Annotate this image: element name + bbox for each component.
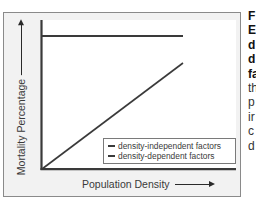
figure-caption: F E d d fa th p ir c d [248,9,256,153]
y-axis-arrow-icon [21,23,22,75]
caption-bold-line: E [248,23,256,37]
caption-bold-line: F [248,9,256,23]
caption-bold-line: d [248,38,256,52]
caption-bold-line: d [248,52,256,66]
y-axis-label: Mortality Percentage [15,23,27,175]
legend: density-independent factors density-depe… [103,138,236,164]
legend-line-swatch-icon [108,155,115,157]
caption-text-line: ir [248,110,256,124]
caption-text-line: c [248,124,256,138]
caption-text-line: d [248,139,256,153]
caption-text-line: p [248,95,256,109]
legend-item-density-independent: density-independent factors [108,141,232,151]
legend-label: density-independent factors [118,141,221,151]
caption-text-line: th [248,81,256,95]
y-axis-label-text: Mortality Percentage [15,79,27,175]
chart-plot [0,0,256,201]
caption-bold-line: fa [248,67,256,81]
x-axis-arrow-icon [175,184,211,185]
x-axis-label-text: Population Density [82,178,170,190]
legend-item-density-dependent: density-dependent factors [108,151,232,161]
x-axis-label: Population Density [82,178,211,190]
legend-line-swatch-icon [108,145,115,147]
legend-label: density-dependent factors [118,151,214,161]
